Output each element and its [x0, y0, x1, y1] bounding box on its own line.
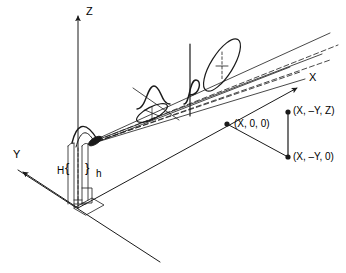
beam-envelope-rays [97, 33, 330, 142]
axis-y-line [23, 172, 78, 208]
mast-height-label-H: H [57, 166, 64, 176]
point-label-x-my-0: (X, –Y, 0) [293, 152, 334, 162]
mast-brace-open: { [65, 161, 69, 174]
mast-height-label-h: h [96, 169, 102, 179]
point-label-x-0-0: (X, 0, 0) [234, 119, 270, 129]
diagram-canvas: Z X Y H { } h (X, 0, 0) (X, –Y, Z) (X, –… [0, 0, 346, 273]
axis-label-z: Z [86, 6, 93, 17]
beam-geometry-illustration [0, 0, 346, 273]
point-label-x-my-z: (X, –Y, Z) [293, 106, 335, 116]
axis-label-x: X [309, 72, 316, 83]
ground-plane-line [18, 170, 160, 262]
axis-label-y: Y [13, 149, 20, 160]
mast-brace-close: } [85, 161, 89, 174]
point-markers [224, 109, 290, 159]
beam-axis-dashed [98, 45, 338, 141]
axis-x-line [78, 88, 297, 208]
